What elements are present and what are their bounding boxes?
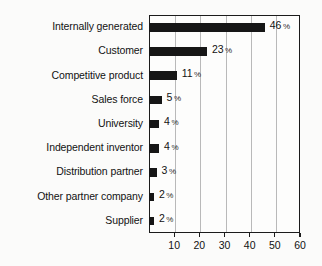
gridline-20 xyxy=(200,16,201,232)
category-label: Customer xyxy=(0,45,143,56)
x-tick-mark-60 xyxy=(299,233,300,237)
category-label: Independent inventor xyxy=(0,142,143,153)
category-label: Supplier xyxy=(0,215,143,226)
category-label: Internally generated xyxy=(0,21,143,32)
x-tick-label: 40 xyxy=(239,239,261,251)
x-tick-label: 50 xyxy=(264,239,286,251)
x-tick-label: 60 xyxy=(289,239,311,251)
plot-area xyxy=(149,15,300,233)
x-tick-mark-30 xyxy=(224,233,225,237)
category-label: Sales force xyxy=(0,94,143,105)
x-tick-label: 10 xyxy=(163,239,185,251)
gridline-10 xyxy=(175,16,176,232)
gridline-40 xyxy=(251,16,252,232)
x-tick-mark-10 xyxy=(174,233,175,237)
category-label: Competitive product xyxy=(0,70,143,81)
x-tick-mark-40 xyxy=(249,233,250,237)
x-tick-mark-50 xyxy=(274,233,275,237)
x-tick-label: 30 xyxy=(214,239,236,251)
x-tick-mark-20 xyxy=(199,233,200,237)
gridline-30 xyxy=(226,16,227,232)
x-tick-label: 20 xyxy=(188,239,210,251)
category-label: Other partner company xyxy=(0,191,143,202)
category-label: University xyxy=(0,118,143,129)
category-label: Distribution partner xyxy=(0,166,143,177)
bar-chart: Internally generatedCustomerCompetitive … xyxy=(0,0,322,266)
category-axis-labels: Internally generatedCustomerCompetitive … xyxy=(0,15,146,233)
gridline-50 xyxy=(276,16,277,232)
x-axis: 102030405060 xyxy=(149,233,300,263)
